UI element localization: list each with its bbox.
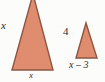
small-triangle-side-label: 4 <box>63 26 69 37</box>
large-triangle-side-label: x <box>1 20 6 31</box>
large-triangle-base-label: x <box>29 71 33 80</box>
triangles-canvas <box>0 0 105 82</box>
large-triangle-shape <box>12 0 53 70</box>
small-triangle-shape <box>76 23 97 58</box>
geometry-figure: x x 4 x – 3 <box>0 0 105 82</box>
small-triangle-base-label: x – 3 <box>69 60 88 70</box>
